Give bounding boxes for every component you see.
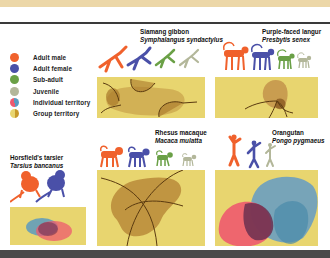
- bottom-band: [0, 250, 330, 258]
- legend-label: Group territory: [33, 110, 79, 117]
- individual-territory-map: [215, 170, 318, 246]
- macaque-common-name: Rhesus macaque: [155, 129, 207, 136]
- legend-item-juvenile: Juvenile: [10, 86, 90, 97]
- legend-item-adult-male: Adult male: [10, 52, 90, 63]
- macaque-scientific-name: Macaca mulatta: [155, 137, 207, 145]
- legend: Adult male Adult female Sub-adult Juveni…: [10, 52, 90, 119]
- siamang-territory-panel: [97, 77, 205, 118]
- individual-territory-dot-icon: [10, 98, 19, 107]
- group-territory-map: [97, 77, 205, 118]
- tarsier-icon: [10, 170, 72, 204]
- langur-territory-panel: [215, 77, 318, 118]
- group-territory-map: [97, 170, 205, 246]
- langur-common-name: Purple-faced langur: [262, 28, 321, 35]
- orangutan-scientific-name: Pongo pygmaeus: [272, 137, 324, 145]
- sub-adult-dot-icon: [10, 75, 19, 84]
- tarsier-animals: [10, 170, 72, 204]
- macaque-territory-panel: [97, 170, 205, 246]
- macaque-icon: [97, 145, 207, 169]
- orangutan-territory-panel: [215, 170, 318, 246]
- tarsier-common-name: Horsfield's tarsier: [10, 154, 63, 161]
- legend-label: Adult male: [33, 54, 66, 61]
- header-rule: [0, 22, 330, 24]
- adult-male-dot-icon: [10, 53, 19, 62]
- legend-label: Juvenile: [33, 88, 59, 95]
- orangutan-icon: [228, 133, 278, 169]
- legend-item-sub-adult: Sub-adult: [10, 74, 90, 85]
- macaque-title: Rhesus macaque Macaca mulatta: [155, 129, 207, 145]
- siamang-animals: [98, 45, 210, 75]
- group-territory-map: [215, 77, 318, 118]
- top-color-band: [0, 0, 330, 7]
- juvenile-dot-icon: [10, 87, 19, 96]
- tarsier-scientific-name: Tarsius bancanus: [10, 162, 63, 170]
- langur-animals: [218, 40, 318, 76]
- individual-territory-map: [10, 207, 86, 245]
- gibbon-icon: [98, 45, 210, 75]
- legend-item-group-territory: Group territory: [10, 108, 90, 119]
- orangutan-title: Orangutan Pongo pygmaeus: [272, 129, 324, 145]
- legend-item-individual-territory: Individual territory: [10, 97, 90, 108]
- legend-label: Sub-adult: [33, 76, 63, 83]
- langur-icon: [218, 40, 318, 76]
- legend-label: Individual territory: [33, 99, 90, 106]
- legend-label: Adult female: [33, 65, 72, 72]
- adult-female-dot-icon: [10, 64, 19, 73]
- siamang-common-name: Siamang gibbon: [140, 28, 189, 35]
- siamang-title: Siamang gibbon Symphalangus syndactylus: [140, 28, 223, 44]
- group-territory-dot-icon: [10, 109, 19, 118]
- macaque-animals: [97, 145, 207, 169]
- siamang-scientific-name: Symphalangus syndactylus: [140, 36, 223, 44]
- tarsier-title: Horsfield's tarsier Tarsius bancanus: [10, 154, 63, 170]
- orangutan-animals: [228, 133, 278, 169]
- tarsier-territory-panel: [10, 207, 86, 245]
- legend-item-adult-female: Adult female: [10, 63, 90, 74]
